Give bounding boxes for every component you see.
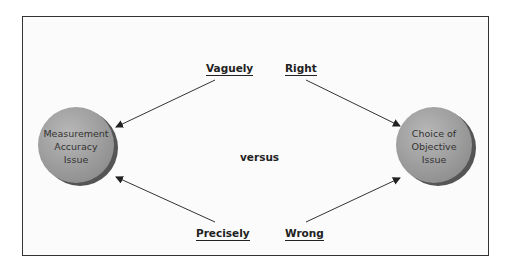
node-right-label: Choice of Objective Issue: [394, 127, 474, 166]
node-right-line-1: Choice of: [394, 127, 474, 140]
arrow-vaguely: [116, 80, 215, 127]
arrow-wrong: [306, 178, 400, 222]
label-wrong: Wrong: [285, 227, 324, 241]
arrow-right: [306, 80, 400, 126]
arrow-precisely: [116, 177, 215, 222]
node-left-label: Measurement Accuracy Issue: [36, 127, 116, 166]
node-left-line-3: Issue: [36, 153, 116, 166]
node-left-line-1: Measurement: [36, 127, 116, 140]
node-right-line-2: Objective: [394, 140, 474, 153]
node-right-line-3: Issue: [394, 153, 474, 166]
label-versus: versus: [240, 151, 279, 163]
label-right: Right: [285, 62, 317, 76]
label-precisely: Precisely: [196, 227, 250, 241]
node-left-line-2: Accuracy: [36, 140, 116, 153]
label-vaguely: Vaguely: [206, 62, 253, 76]
